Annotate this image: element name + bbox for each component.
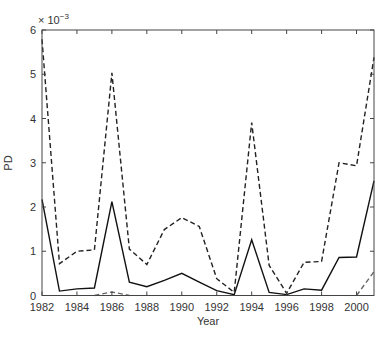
y-tick-label: 5 <box>30 68 36 80</box>
x-tick-label: 1982 <box>30 301 54 313</box>
x-axis-label: Year <box>197 315 220 327</box>
x-tick-label: 1990 <box>170 301 194 313</box>
y-tick-label: 0 <box>30 290 36 302</box>
y-tick-label: 4 <box>30 113 36 125</box>
series-line-solid <box>42 181 374 295</box>
x-tick-label: 1988 <box>135 301 159 313</box>
x-tick-label: 1986 <box>100 301 124 313</box>
x-tick-label: 1998 <box>309 301 333 313</box>
x-tick-label: 1984 <box>65 301 89 313</box>
y-tick-label: 3 <box>30 157 36 169</box>
series-line-dashed <box>42 39 374 293</box>
x-tick-label: 1996 <box>274 301 298 313</box>
x-tick-label: 1992 <box>204 301 228 313</box>
y-tick-label: 2 <box>30 201 36 213</box>
y-axis-label: PD <box>2 155 14 170</box>
plot-frame <box>42 30 374 296</box>
y-tick-label: 6 <box>30 24 36 36</box>
line-chart: 1982198419861988199019921994199619982000… <box>0 0 392 342</box>
y-exponent-label: × 10−3 <box>38 12 69 26</box>
x-tick-label: 2000 <box>344 301 368 313</box>
plot-lines <box>42 39 374 295</box>
x-tick-label: 1994 <box>239 301 263 313</box>
series-line-dashed-light <box>357 272 374 296</box>
x-axis-ticks: 1982198419861988199019921994199619982000 <box>30 30 369 313</box>
y-tick-label: 1 <box>30 245 36 257</box>
